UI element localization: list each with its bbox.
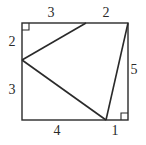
right-angle-marker-bottom-right (121, 113, 128, 120)
segment-left-to-bottom (22, 60, 106, 120)
label-right: 5 (131, 62, 138, 77)
label-bottom-left: 4 (54, 123, 61, 138)
diagram-canvas: 3 2 2 3 5 4 1 (0, 0, 146, 145)
label-top-right: 2 (103, 5, 110, 20)
label-bottom-right: 1 (112, 123, 119, 138)
segment-corner-to-bottom (106, 23, 128, 120)
right-angle-marker-top-left (22, 23, 29, 30)
label-left-lower: 3 (9, 82, 16, 97)
label-left-upper: 2 (9, 34, 16, 49)
geometry-diagram: 3 2 2 3 5 4 1 (0, 0, 146, 145)
segment-top-to-left (22, 23, 86, 60)
label-top-left: 3 (48, 5, 55, 20)
